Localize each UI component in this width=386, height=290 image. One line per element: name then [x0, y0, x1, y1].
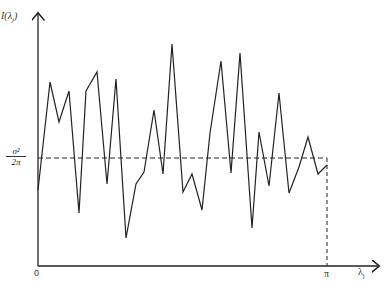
ref-numerator: σ² — [6, 146, 26, 157]
x-axis-label: λj — [358, 266, 365, 280]
y-axis-label: I(λj) — [1, 10, 17, 24]
reference-label: σ² 2π — [6, 146, 26, 167]
periodogram-chart — [0, 0, 386, 290]
x-pi-label: π — [324, 268, 329, 279]
periodogram-line — [38, 44, 327, 238]
ref-denominator: 2π — [11, 157, 20, 167]
x-origin-label: 0 — [34, 268, 39, 278]
